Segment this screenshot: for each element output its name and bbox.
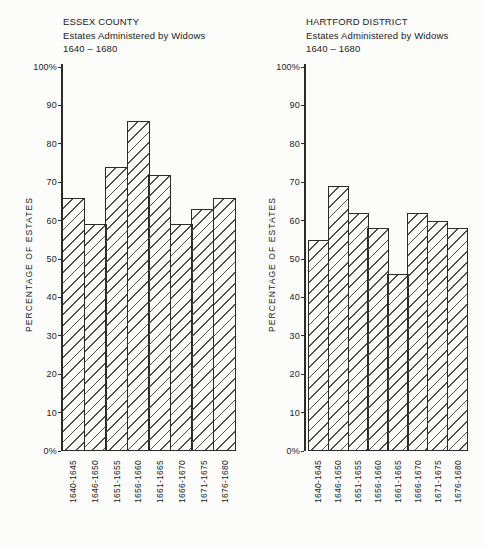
- bar-1666-1670: [407, 213, 428, 451]
- hartford-plot-area: 100%9080706050403020100%PERCENTAGE OF ES…: [243, 0, 485, 547]
- y-tick-mark: [301, 220, 305, 221]
- y-tick-mark: [58, 143, 62, 144]
- y-tick-label: 70: [266, 177, 300, 187]
- y-tick-label: 10: [266, 408, 300, 418]
- essex-county-chart: ESSEX COUNTY Estates Administered by Wid…: [0, 0, 242, 547]
- x-tick-label: 1666-1670: [177, 460, 187, 503]
- bar-1671-1675: [427, 221, 448, 451]
- x-tick-label: 1656-1660: [133, 460, 143, 503]
- y-tick-label: 80: [23, 139, 57, 149]
- y-tick-label: 100%: [266, 62, 300, 72]
- bar-1656-1660: [367, 228, 388, 451]
- bar-1666-1670: [170, 224, 193, 451]
- y-tick-label: 80: [266, 139, 300, 149]
- y-tick-mark: [301, 297, 305, 298]
- y-tick-mark: [301, 335, 305, 336]
- bars-group: [62, 67, 236, 451]
- y-tick-mark: [58, 335, 62, 336]
- y-tick-mark: [301, 67, 305, 68]
- y-tick-mark: [58, 220, 62, 221]
- y-tick-label: 30: [266, 331, 300, 341]
- y-tick-mark: [58, 412, 62, 413]
- y-tick-mark: [58, 105, 62, 106]
- y-tick-mark: [301, 412, 305, 413]
- y-tick-mark: [58, 451, 62, 452]
- bar-1656-1660: [127, 121, 150, 451]
- x-tick-label: 1646-1650: [333, 460, 343, 503]
- y-tick-mark: [58, 297, 62, 298]
- y-axis-line: [304, 64, 306, 451]
- bar-1640-1645: [308, 240, 329, 451]
- bar-1671-1675: [191, 209, 214, 451]
- y-tick-label: 90: [266, 100, 300, 110]
- y-tick-label: 30: [23, 331, 57, 341]
- y-tick-mark: [58, 67, 62, 68]
- x-tick-label: 1671-1675: [199, 460, 209, 503]
- y-tick-mark: [301, 259, 305, 260]
- y-tick-label: 100%: [23, 62, 57, 72]
- bar-1646-1650: [84, 224, 107, 451]
- y-tick-label: 0%: [23, 446, 57, 456]
- y-tick-mark: [301, 374, 305, 375]
- bar-1676-1680: [213, 198, 236, 451]
- x-tick-label: 1651-1655: [112, 460, 122, 503]
- y-tick-label: 20: [266, 369, 300, 379]
- y-tick-label: 0%: [266, 446, 300, 456]
- figure-widow-estates: ESSEX COUNTY Estates Administered by Wid…: [0, 0, 485, 547]
- y-tick-mark: [301, 451, 305, 452]
- bar-1676-1680: [447, 228, 468, 451]
- y-axis-title: PERCENTAGE OF ESTATES: [267, 197, 277, 332]
- bar-1661-1665: [148, 175, 171, 451]
- x-tick-label: 1666-1670: [413, 460, 423, 503]
- y-axis-title: PERCENTAGE OF ESTATES: [24, 197, 34, 332]
- x-tick-label: 1676-1680: [453, 460, 463, 503]
- y-tick-label: 20: [23, 369, 57, 379]
- x-tick-label: 1651-1655: [353, 460, 363, 503]
- bars-group: [308, 67, 468, 451]
- x-tick-label: 1646-1650: [90, 460, 100, 503]
- bar-1646-1650: [328, 186, 349, 451]
- y-tick-mark: [58, 374, 62, 375]
- y-tick-label: 90: [23, 100, 57, 110]
- x-tick-label: 1671-1675: [433, 460, 443, 503]
- bar-1661-1665: [387, 274, 408, 451]
- bar-1640-1645: [62, 198, 85, 451]
- essex-plot-area: 100%9080706050403020100%PERCENTAGE OF ES…: [0, 0, 242, 547]
- x-tick-label: 1656-1660: [373, 460, 383, 503]
- x-tick-label: 1661-1665: [393, 460, 403, 503]
- x-tick-label: 1676-1680: [220, 460, 230, 503]
- y-tick-mark: [301, 105, 305, 106]
- bar-1651-1655: [105, 167, 128, 451]
- x-tick-label: 1640-1645: [68, 460, 78, 503]
- y-tick-label: 70: [23, 177, 57, 187]
- y-tick-mark: [301, 182, 305, 183]
- y-tick-mark: [301, 143, 305, 144]
- y-tick-mark: [58, 182, 62, 183]
- x-tick-label: 1640-1645: [313, 460, 323, 503]
- bar-1651-1655: [348, 213, 369, 451]
- y-tick-mark: [58, 259, 62, 260]
- y-tick-label: 10: [23, 408, 57, 418]
- hartford-district-chart: HARTFORD DISTRICT Estates Administered b…: [243, 0, 485, 547]
- x-tick-label: 1661-1665: [155, 460, 165, 503]
